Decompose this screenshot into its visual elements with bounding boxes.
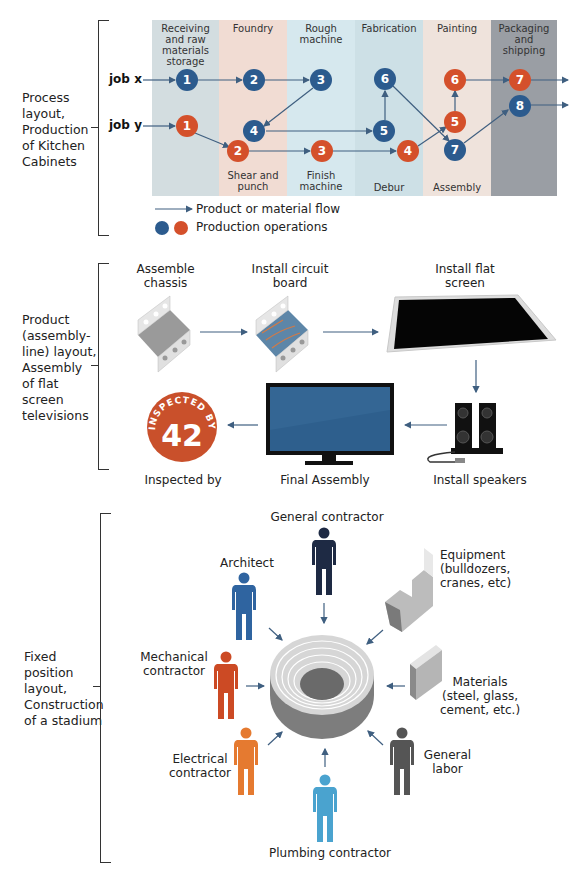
- label-line: of Kitchen: [22, 138, 89, 154]
- label-line: layout,: [22, 106, 89, 122]
- job-x-operation-7: 7: [444, 139, 466, 161]
- electrical-contractor-label: Electrical contractor: [165, 752, 235, 780]
- label-line: (bulldozers,: [440, 562, 520, 576]
- product-layout-label: Product (assembly- line) layout, Assembl…: [22, 312, 96, 424]
- column-subtitle: Shear and punch: [219, 170, 287, 192]
- general-contractor-label: General contractor: [262, 510, 392, 524]
- column-subtitle: Assembly: [423, 182, 491, 193]
- label-line: labor: [420, 762, 475, 776]
- inspected-badge-icon: INSPECTED BY 42: [147, 392, 217, 462]
- section-bracket: [100, 513, 111, 863]
- step-inspected-label: Inspected by: [133, 473, 233, 487]
- legend-operations-label: Production operations: [196, 220, 328, 234]
- label-line: Product: [22, 312, 96, 328]
- label-line: of a stadium: [24, 713, 104, 729]
- label-line: Electrical: [165, 752, 235, 766]
- legend-blue-dot-icon: [155, 221, 169, 235]
- job-x-operation-8: 8: [509, 95, 531, 117]
- label-line: General: [420, 748, 475, 762]
- step-install-screen-label: Install flat screen: [420, 262, 510, 290]
- circuit-board-icon: [256, 296, 308, 372]
- column-painting: Painting Assembly: [423, 20, 491, 196]
- legend-flow-label: Product or material flow: [196, 202, 340, 216]
- section-bracket: [98, 20, 109, 236]
- chassis-icon: [138, 296, 190, 372]
- mechanical-contractor-label: Mechanical contractor: [138, 650, 210, 678]
- job-x-label: job x: [109, 72, 142, 86]
- label-line: Cabinets: [22, 154, 89, 170]
- job-y-operation-3: 3: [311, 140, 333, 162]
- label-line: Equipment: [440, 548, 520, 562]
- label-line: (assembly-: [22, 328, 96, 344]
- label-line: televisions: [22, 408, 96, 424]
- job-y-label: job y: [109, 118, 142, 132]
- job-y-operation-5: 5: [444, 111, 466, 133]
- column-subtitle: Debur: [355, 182, 423, 193]
- label-line: Production: [22, 122, 89, 138]
- flat-screen-icon: [387, 295, 556, 352]
- materials-label: Materials (steel, glass, cement, etc.): [435, 675, 525, 717]
- job-x-operation-6: 6: [374, 68, 396, 90]
- label-line: Assembly: [22, 360, 96, 376]
- svg-text:42: 42: [161, 418, 203, 453]
- column-foundry: Foundry Shear and punch: [219, 20, 287, 196]
- speakers-icon: [428, 403, 503, 463]
- label-line: screen: [22, 392, 96, 408]
- column-title: Receiving and raw materials storage: [152, 23, 219, 67]
- step-final-assembly-label: Final Assembly: [265, 473, 385, 487]
- label-line: Construction: [24, 697, 104, 713]
- label-line: Process: [22, 90, 89, 106]
- step-assemble-chassis-label: Assemble chassis: [128, 262, 203, 290]
- general-contractor-icon: [312, 528, 336, 596]
- architect-icon: [232, 573, 256, 641]
- label-line: cement, etc.): [435, 703, 525, 717]
- job-x-operation-3: 3: [310, 69, 332, 91]
- mechanical-contractor-icon: [214, 652, 238, 720]
- column-subtitle: Finish machine: [287, 170, 355, 192]
- column-fabrication: Fabrication Debur: [355, 20, 423, 196]
- label-line: layout,: [24, 681, 104, 697]
- stadium-icon: [270, 635, 374, 739]
- plumbing-contractor-label: Plumbing contractor: [260, 846, 400, 860]
- svg-text:INSPECTED BY: INSPECTED BY: [147, 395, 217, 431]
- job-y-operation-2: 2: [227, 140, 249, 162]
- electrical-contractor-icon: [234, 728, 258, 796]
- job-x-operation-1: 1: [176, 69, 198, 91]
- job-y-operation-4: 4: [397, 140, 419, 162]
- job-x-operation-2: 2: [243, 69, 265, 91]
- column-title: Packaging and shipping: [491, 23, 557, 56]
- label-line: contractor: [165, 766, 235, 780]
- column-title: Painting: [423, 23, 491, 34]
- column-receiving: Receiving and raw materials storage: [152, 20, 219, 196]
- step-install-speakers-label: Install speakers: [420, 473, 540, 487]
- general-labor-label: General labor: [420, 748, 475, 776]
- fixed-layout-label: Fixed position layout, Construction of a…: [24, 649, 104, 729]
- column-title: Rough machine: [287, 23, 355, 45]
- legend-orange-dot-icon: [174, 221, 188, 235]
- step-install-circuit-label: Install circuit board: [240, 262, 340, 290]
- bracket-tick: [93, 686, 101, 687]
- job-y-operation-7: 7: [509, 69, 531, 91]
- general-labor-icon: [390, 728, 414, 796]
- equipment-label: Equipment (bulldozers, cranes, etc): [440, 548, 520, 590]
- label-line: line) layout,: [22, 344, 96, 360]
- label-line: Materials: [435, 675, 525, 689]
- job-x-operation-4: 4: [243, 120, 265, 142]
- label-line: Fixed: [24, 649, 104, 665]
- bracket-tick: [91, 127, 99, 128]
- job-y-operation-1: 1: [176, 115, 198, 137]
- bracket-tick: [91, 365, 99, 366]
- label-line: of flat: [22, 376, 96, 392]
- plumbing-contractor-icon: [313, 775, 337, 843]
- section-bracket: [98, 263, 109, 470]
- process-layout-label: Process layout, Production of Kitchen Ca…: [22, 90, 89, 170]
- monitor-icon: [266, 383, 394, 465]
- column-title: Fabrication: [355, 23, 423, 34]
- column-title: Foundry: [219, 23, 287, 34]
- job-x-operation-5: 5: [373, 120, 395, 142]
- label-line: Mechanical: [138, 650, 210, 664]
- equipment-icon: [385, 548, 433, 632]
- label-line: (steel, glass,: [435, 689, 525, 703]
- job-y-operation-6: 6: [444, 69, 466, 91]
- architect-label: Architect: [212, 556, 282, 570]
